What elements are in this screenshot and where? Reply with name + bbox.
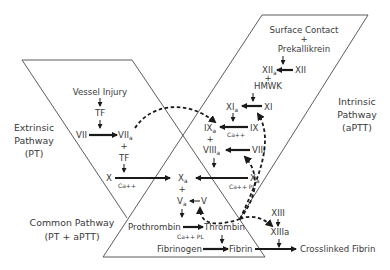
node-prothrombin: Prothrombin bbox=[128, 222, 181, 232]
cofactor-ca-pl-prothrombin: Ca++ PL bbox=[177, 233, 204, 240]
svg-text:Intrinsic: Intrinsic bbox=[338, 96, 375, 107]
node-vii: VII bbox=[76, 130, 87, 140]
svg-text:(aPTT): (aPTT) bbox=[342, 122, 372, 133]
node-tf-2: TF bbox=[118, 153, 129, 163]
svg-text:Common Pathway: Common Pathway bbox=[30, 217, 115, 228]
plus-sign: + bbox=[206, 134, 213, 144]
svg-text:Pathway: Pathway bbox=[14, 135, 54, 146]
node-viia: VIIa bbox=[118, 130, 133, 141]
feedback-viia-to-ixa bbox=[135, 107, 215, 128]
intrinsic-pathway-label: Intrinsic Pathway (aPTT) bbox=[337, 96, 377, 133]
node-va: Va bbox=[177, 196, 187, 207]
node-fibrinogen: Fibrinogen bbox=[157, 244, 202, 254]
plus-sign: + bbox=[300, 34, 307, 44]
node-thrombin: Thrombin bbox=[203, 222, 245, 232]
node-vessel-injury: Vessel Injury bbox=[73, 87, 127, 97]
node-hmwk: HMWK bbox=[254, 81, 282, 91]
extrinsic-pathway-label: Extrinsic Pathway (PT) bbox=[14, 122, 54, 159]
node-viiia: VIIIa bbox=[203, 145, 220, 156]
node-xi: XI bbox=[264, 102, 272, 112]
node-xiii: XIII bbox=[271, 208, 285, 218]
svg-text:Pathway: Pathway bbox=[337, 109, 377, 120]
node-crosslinked-fibrin: Crosslinked Fibrin bbox=[300, 244, 375, 254]
coagulation-cascade-diagram: Extrinsic Pathway (PT) Intrinsic Pathway… bbox=[0, 0, 390, 270]
node-tf: TF bbox=[94, 108, 105, 118]
svg-text:(PT + aPTT): (PT + aPTT) bbox=[44, 231, 99, 242]
cofactor-ca-x: Ca++ bbox=[118, 182, 136, 189]
node-ixa: IXa bbox=[204, 123, 216, 134]
node-fibrin: Fibrin bbox=[229, 244, 253, 254]
svg-text:(PT): (PT) bbox=[25, 148, 44, 159]
cofactor-ca-ix: Ca++ bbox=[227, 131, 245, 138]
node-xii: XII bbox=[295, 65, 306, 75]
node-x-extrinsic: X bbox=[106, 173, 112, 183]
node-xa: Xa bbox=[178, 173, 188, 184]
plus-sign: + bbox=[120, 141, 127, 151]
node-xia: XIa bbox=[226, 102, 238, 113]
node-xiiia: XIIIa bbox=[271, 227, 290, 237]
plus-sign: + bbox=[178, 184, 185, 194]
common-pathway-label: Common Pathway (PT + aPTT) bbox=[30, 217, 115, 242]
node-prekallikrein: Prekallikrein bbox=[278, 44, 330, 54]
node-ix: IX bbox=[250, 123, 259, 133]
svg-text:Extrinsic: Extrinsic bbox=[14, 122, 54, 133]
node-v: V bbox=[201, 196, 207, 206]
